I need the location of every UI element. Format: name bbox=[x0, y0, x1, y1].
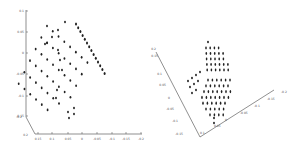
data-point bbox=[202, 102, 204, 105]
data-point bbox=[47, 109, 49, 112]
data-point bbox=[206, 69, 208, 72]
tick-label: 0.1 bbox=[157, 72, 162, 76]
data-point bbox=[70, 96, 72, 99]
data-point bbox=[201, 96, 203, 99]
data-point bbox=[221, 90, 223, 93]
data-point bbox=[64, 21, 66, 24]
data-point bbox=[29, 76, 31, 79]
data-point bbox=[225, 90, 227, 93]
data-point bbox=[90, 49, 92, 52]
left-data-points bbox=[18, 21, 106, 120]
data-point bbox=[46, 25, 48, 28]
data-point bbox=[75, 84, 77, 87]
data-point bbox=[52, 47, 54, 50]
data-point bbox=[227, 63, 229, 66]
data-point bbox=[211, 102, 213, 105]
right-data-points bbox=[187, 41, 231, 125]
data-point bbox=[79, 30, 81, 33]
data-point bbox=[220, 78, 222, 81]
data-point bbox=[219, 96, 221, 99]
tick-label: -0.2 bbox=[281, 90, 287, 94]
tick-label: 0.05 bbox=[17, 30, 24, 34]
data-point bbox=[218, 113, 220, 116]
data-point bbox=[68, 117, 70, 120]
data-point bbox=[210, 96, 212, 99]
data-point bbox=[18, 82, 20, 85]
tick-label: 0.1 bbox=[19, 9, 24, 13]
data-point bbox=[228, 96, 230, 99]
tick-label: -0.15 bbox=[175, 132, 183, 136]
data-point bbox=[41, 103, 43, 106]
data-point bbox=[218, 52, 220, 55]
tick-label: -0.05 bbox=[240, 111, 248, 115]
data-point bbox=[41, 87, 43, 90]
left-tick-labels: 0.10.050-0.05-0.1-0.150.150.10.050-0.05-… bbox=[16, 9, 144, 141]
tick-label: -0.1 bbox=[172, 119, 178, 123]
data-point bbox=[35, 65, 37, 68]
data-point bbox=[205, 107, 207, 110]
data-point bbox=[73, 107, 75, 110]
data-point bbox=[219, 63, 221, 66]
tick-label: -0.1 bbox=[109, 137, 115, 141]
data-point bbox=[56, 89, 58, 92]
data-point bbox=[222, 113, 224, 116]
tick-label: 0.15 bbox=[151, 54, 158, 58]
data-point bbox=[58, 69, 60, 72]
data-point bbox=[64, 57, 66, 60]
data-point bbox=[101, 68, 103, 71]
data-point bbox=[223, 84, 225, 87]
tick-label: 0 bbox=[22, 51, 24, 55]
data-point bbox=[216, 90, 218, 93]
data-point bbox=[223, 63, 225, 66]
data-point bbox=[64, 91, 66, 94]
data-point bbox=[82, 34, 84, 37]
data-point bbox=[211, 69, 213, 72]
tick-label: 0 bbox=[168, 96, 170, 100]
data-point bbox=[223, 96, 225, 99]
data-point bbox=[58, 102, 60, 105]
data-point bbox=[223, 69, 225, 72]
data-point bbox=[206, 63, 208, 66]
data-point bbox=[195, 89, 197, 92]
data-point bbox=[75, 68, 77, 71]
data-point bbox=[218, 84, 220, 87]
data-point bbox=[222, 52, 224, 55]
data-point bbox=[73, 113, 75, 116]
data-point bbox=[63, 40, 65, 43]
data-point bbox=[210, 63, 212, 66]
data-point bbox=[219, 69, 221, 72]
data-point bbox=[84, 38, 86, 41]
data-point bbox=[88, 45, 90, 48]
data-point bbox=[218, 47, 220, 50]
data-point bbox=[58, 52, 60, 55]
data-point bbox=[95, 57, 97, 60]
data-point bbox=[206, 52, 208, 55]
data-point bbox=[46, 75, 48, 78]
data-point bbox=[213, 122, 215, 125]
data-point bbox=[214, 47, 216, 50]
data-point bbox=[24, 88, 26, 91]
data-point bbox=[51, 36, 53, 39]
left-3d-scatter-plot: 0.10.050-0.05-0.1-0.150.150.10.050-0.05-… bbox=[0, 0, 146, 151]
tick-label: -0.2 bbox=[138, 137, 144, 141]
data-point bbox=[197, 80, 199, 83]
right-3d-scatter-plot: 0.20.150.10.050-0.05-0.1-0.150.10.050-0.… bbox=[146, 0, 292, 151]
data-point bbox=[44, 43, 46, 46]
tick-label: 0.1 bbox=[50, 137, 55, 141]
data-point bbox=[75, 51, 77, 54]
data-point bbox=[212, 90, 214, 93]
data-point bbox=[81, 73, 83, 76]
left-axes bbox=[26, 10, 142, 134]
data-point bbox=[93, 53, 95, 56]
data-point bbox=[52, 63, 54, 66]
data-point bbox=[29, 59, 31, 62]
data-point bbox=[216, 78, 218, 81]
data-point bbox=[35, 48, 37, 51]
data-point bbox=[220, 102, 222, 105]
data-point bbox=[227, 69, 229, 72]
data-point bbox=[69, 46, 71, 49]
data-point bbox=[57, 29, 59, 32]
tick-label: -0.1 bbox=[18, 94, 24, 98]
data-point bbox=[215, 69, 217, 72]
tick-label: -0.15 bbox=[122, 137, 130, 141]
